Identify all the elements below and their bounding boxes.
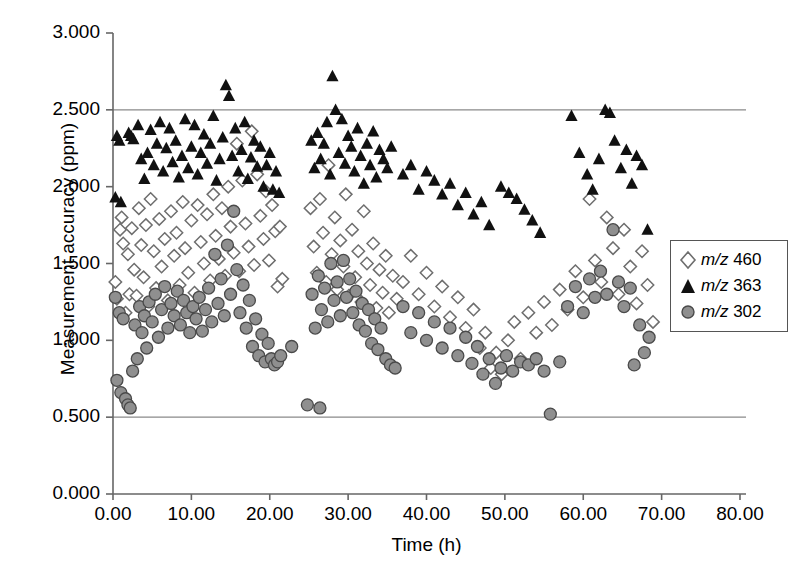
circle-marker-icon (677, 301, 699, 323)
x-tick-label: 50.00 (460, 504, 550, 523)
data-point-diamond (612, 288, 624, 300)
data-point-triangle (630, 150, 642, 162)
data-point-triangle (370, 171, 382, 183)
data-point-diamond (508, 316, 520, 328)
data-point-triangle (342, 130, 354, 142)
data-point-circle (203, 282, 215, 294)
data-point-diamond (397, 276, 409, 288)
data-point-triangle (138, 173, 150, 185)
data-point-circle (460, 331, 472, 343)
data-point-circle (328, 294, 340, 306)
data-point-diamond (185, 214, 197, 226)
data-point-triangle (345, 140, 357, 152)
data-point-circle (206, 316, 218, 328)
data-point-triangle (166, 156, 178, 168)
data-point-diamond (361, 257, 373, 269)
data-point-diamond (248, 259, 260, 271)
data-point-circle (209, 248, 221, 260)
legend-item-mz460[interactable]: m/z 460 (677, 247, 787, 273)
data-point-circle (397, 301, 409, 313)
data-point-circle (162, 322, 174, 334)
data-point-circle (212, 297, 224, 309)
data-point-circle (577, 307, 589, 319)
legend-item-mz363[interactable]: m/z 363 (677, 273, 787, 299)
data-point-diamond (380, 250, 392, 262)
legend-label-mz460: m/z 460 (701, 250, 762, 270)
y-tick-label: 1.000 (0, 329, 100, 348)
data-point-triangle (361, 137, 373, 149)
data-point-circle (530, 353, 542, 365)
x-tick-label: 30.00 (303, 504, 393, 523)
data-point-diamond (159, 233, 171, 245)
data-point-diamond (577, 291, 589, 303)
data-point-diamond (207, 188, 219, 200)
data-point-diamond (405, 250, 417, 262)
chart-legend: m/z 460 m/z 363 m/z 302 (670, 240, 788, 332)
x-axis-label: Time (h) (113, 534, 740, 556)
data-point-diamond (329, 211, 341, 223)
series-triangle (109, 70, 653, 238)
y-tick-label: 1.500 (0, 253, 100, 272)
data-point-triangle (609, 134, 621, 146)
data-point-diamond (109, 276, 121, 288)
data-point-diamond (195, 236, 207, 248)
data-point-triangle (444, 177, 456, 189)
data-point-diamond (266, 199, 278, 211)
data-point-diamond (647, 316, 659, 328)
data-point-diamond (420, 267, 432, 279)
data-point-circle (152, 331, 164, 343)
data-point-triangle (326, 70, 338, 82)
data-point-triangle (188, 119, 200, 131)
data-point-circle (350, 285, 362, 297)
data-point-diamond (115, 211, 127, 223)
data-point-diamond (144, 193, 156, 205)
data-point-triangle (573, 146, 585, 158)
data-point-circle (554, 356, 566, 368)
data-point-circle (124, 402, 136, 414)
data-point-diamond (340, 188, 352, 200)
data-point-triangle (367, 125, 379, 137)
data-point-circle (184, 327, 196, 339)
data-point-diamond (436, 280, 448, 292)
data-point-diamond (538, 296, 550, 308)
data-point-circle (190, 313, 202, 325)
data-point-triangle (641, 223, 653, 235)
data-point-circle (337, 254, 349, 266)
data-point-diamond (367, 237, 379, 249)
data-point-diamond (209, 230, 221, 242)
data-point-diamond (177, 196, 189, 208)
data-point-circle (322, 316, 334, 328)
data-point-circle (452, 350, 464, 362)
data-point-triangle (318, 137, 330, 149)
data-point-circle (562, 301, 574, 313)
data-point-diamond (383, 306, 395, 318)
data-point-circle (594, 265, 606, 277)
data-point-triangle (565, 110, 577, 122)
data-point-triangle (373, 143, 385, 155)
data-point-diamond (216, 202, 228, 214)
data-point-triangle (210, 174, 222, 186)
data-point-circle (159, 281, 171, 293)
data-point-circle (331, 276, 343, 288)
data-point-circle (421, 334, 433, 346)
data-point-circle (584, 273, 596, 285)
data-point-circle (628, 359, 640, 371)
triangle-marker-icon (677, 275, 699, 297)
data-point-triangle (495, 180, 507, 192)
data-point-triangle (270, 165, 282, 177)
legend-item-mz302[interactable]: m/z 302 (677, 299, 787, 325)
x-tick-label: 80.00 (695, 504, 785, 523)
data-point-triangle (413, 183, 425, 195)
data-point-circle (312, 270, 324, 282)
data-point-circle (215, 273, 227, 285)
data-point-diamond (452, 291, 464, 303)
y-tick-label: 2.500 (0, 99, 100, 118)
data-point-circle (325, 258, 337, 270)
data-point-circle (607, 224, 619, 236)
data-point-diamond (334, 234, 346, 246)
data-point-circle (131, 353, 143, 365)
x-tick-label: 20.00 (225, 504, 315, 523)
data-point-circle (218, 310, 230, 322)
data-point-triangle (420, 165, 432, 177)
data-point-diamond (257, 233, 269, 245)
